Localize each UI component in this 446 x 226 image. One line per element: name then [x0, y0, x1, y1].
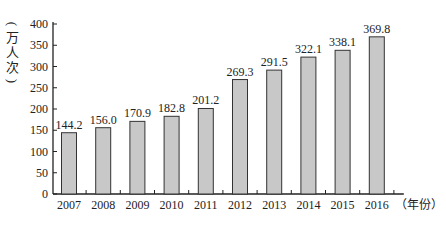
bar [130, 121, 145, 194]
y-axis-label-open-paren: ( [6, 16, 18, 32]
x-tick-label: 2015 [331, 198, 355, 212]
x-axis-label: （年份） [395, 198, 443, 212]
y-tick-label: 300 [30, 60, 48, 74]
y-axis-label-close-paren: ) [6, 73, 18, 89]
x-tick-label: 2016 [365, 198, 389, 212]
bar-value-label: 201.2 [192, 93, 219, 107]
y-tick-label: 50 [36, 166, 48, 180]
y-axis-label-char: 人 [4, 45, 20, 60]
bar [164, 116, 179, 194]
y-tick-label: 200 [30, 102, 48, 116]
y-tick-label: 150 [30, 123, 48, 137]
bar-value-label: 144.2 [56, 118, 83, 132]
x-tick-label: 2013 [262, 198, 286, 212]
y-axis-label: ( 万 人 次 ) [4, 18, 20, 87]
bar-value-label: 369.8 [363, 22, 390, 36]
y-tick-label: 100 [30, 145, 48, 159]
plot-area: 050100150200250300350400144.22007156.020… [0, 0, 446, 226]
bar [96, 128, 111, 194]
y-tick-label: 350 [30, 38, 48, 52]
bar-value-label: 182.8 [158, 101, 185, 115]
bar-value-label: 291.5 [261, 55, 288, 69]
bar-chart: ( 万 人 次 ) 050100150200250300350400144.22… [0, 0, 446, 226]
bar [369, 37, 384, 194]
x-tick-label: 2014 [296, 198, 320, 212]
x-tick-label: 2009 [125, 198, 149, 212]
y-tick-label: 250 [30, 81, 48, 95]
x-tick-label: 2010 [160, 198, 184, 212]
bar [233, 80, 248, 194]
x-tick-label: 2011 [194, 198, 218, 212]
bar [335, 50, 350, 194]
bar [62, 133, 77, 194]
bar-value-label: 322.1 [295, 42, 322, 56]
bar-value-label: 269.3 [227, 65, 254, 79]
x-tick-label: 2007 [57, 198, 81, 212]
bar [198, 108, 213, 194]
bar-value-label: 338.1 [329, 35, 356, 49]
y-tick-label: 400 [30, 17, 48, 31]
bar-value-label: 156.0 [90, 113, 117, 127]
x-tick-label: 2008 [91, 198, 115, 212]
bar [267, 70, 282, 194]
y-axis-label-char: 万 [4, 30, 20, 45]
y-tick-label: 0 [42, 187, 48, 201]
bar [301, 57, 316, 194]
bar-value-label: 170.9 [124, 106, 151, 120]
x-tick-label: 2012 [228, 198, 252, 212]
